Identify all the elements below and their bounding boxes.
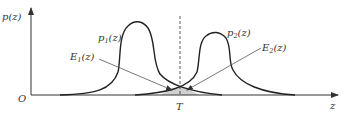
p2-label: p2(z) xyxy=(227,27,251,40)
e1-label: E1(z) xyxy=(69,51,95,64)
diagram-canvas: p(z) O z T p1(z) p2(z) E1(z) E2(z) xyxy=(0,0,348,118)
p1-label: p1(z) xyxy=(98,32,122,45)
threshold-label: T xyxy=(176,101,184,112)
curve-p2 xyxy=(135,32,295,95)
x-axis-label: z xyxy=(329,100,336,111)
y-axis-label: p(z) xyxy=(2,11,22,22)
origin-label: O xyxy=(18,93,26,104)
e2-label: E2(z) xyxy=(261,42,287,55)
